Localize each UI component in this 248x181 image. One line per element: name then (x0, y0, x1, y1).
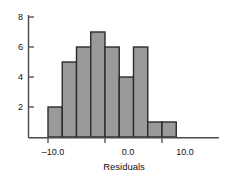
y-tick-label-8: 8 (18, 12, 23, 22)
histogram-bar (134, 47, 148, 137)
histogram-bar (162, 122, 176, 137)
histogram-bar (91, 32, 105, 137)
y-tick-label-6: 6 (18, 42, 23, 52)
x-axis-title: Residuals (103, 161, 145, 172)
histogram-bar (77, 47, 91, 137)
histogram-bar (48, 107, 62, 137)
y-tick-label-4: 4 (18, 72, 23, 82)
x-tick-label-neg10: –10.0 (42, 147, 65, 157)
x-tick-label-10: 10.0 (176, 147, 194, 157)
histogram-figure: 8 6 4 2 –10.0 0.0 10.0 Residuals (0, 0, 248, 181)
x-tick-label-0: 0.0 (122, 147, 135, 157)
y-tick-label-2: 2 (18, 102, 23, 112)
histogram-bar (105, 47, 119, 137)
histogram-bar (148, 122, 162, 137)
histogram-plot-area: 8 6 4 2 –10.0 0.0 10.0 Residuals (0, 0, 248, 181)
histogram-bar (119, 77, 133, 137)
histogram-bar (62, 62, 76, 137)
